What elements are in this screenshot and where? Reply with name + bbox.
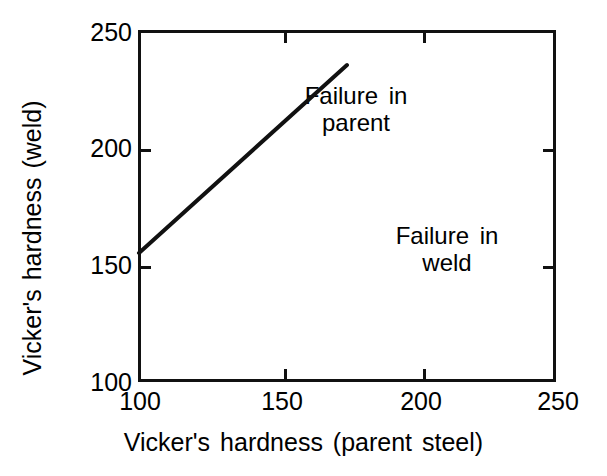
x-tick-label-250: 250 (537, 389, 579, 414)
y-axis-title-container: Vicker's hardness (weld) (0, 0, 64, 476)
x-tick-labels: 100 150 200 250 (0, 0, 607, 476)
x-tick-label-150: 150 (261, 389, 303, 414)
x-tick-label-100: 100 (119, 389, 161, 414)
chart-figure: Failure in parent Failure in weld 250 20… (0, 0, 607, 476)
x-axis-title: Vicker's hardness (parent steel) (0, 428, 607, 457)
y-axis-title: Vicker's hardness (weld) (18, 100, 47, 375)
x-tick-label-200: 200 (400, 389, 442, 414)
